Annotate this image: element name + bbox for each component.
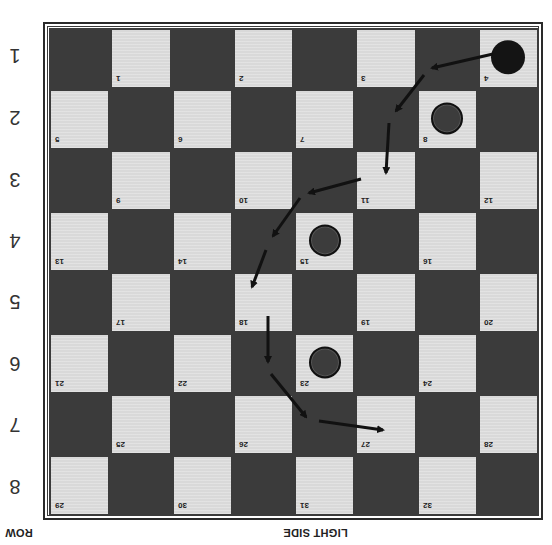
square-number: 13: [55, 257, 64, 266]
square-14[interactable]: 14: [172, 211, 233, 272]
dark-square: [233, 211, 294, 272]
dark-checker-piece-icon[interactable]: [309, 346, 341, 378]
square-2[interactable]: 2: [233, 28, 294, 89]
square-9[interactable]: 9: [110, 150, 171, 211]
square-number: 6: [178, 135, 182, 144]
dark-square: [478, 211, 539, 272]
square-23[interactable]: 23: [294, 333, 355, 394]
square-1[interactable]: 1: [110, 28, 171, 89]
dark-square: [172, 28, 233, 89]
square-number: 31: [300, 501, 309, 510]
row-label-4: 4: [0, 229, 30, 252]
dark-square: [172, 150, 233, 211]
square-15[interactable]: 15: [294, 211, 355, 272]
dark-square: [417, 394, 478, 455]
square-19[interactable]: 19: [355, 272, 416, 333]
square-24[interactable]: 24: [417, 333, 478, 394]
square-20[interactable]: 20: [478, 272, 539, 333]
square-16[interactable]: 16: [417, 211, 478, 272]
board-grid: 1234567891011121314151617181920212223242…: [49, 28, 539, 516]
dark-square: [110, 455, 171, 516]
row-axis-label: ROW: [5, 527, 33, 539]
dark-square: [294, 394, 355, 455]
square-29[interactable]: 29: [49, 455, 110, 516]
dark-square: [294, 272, 355, 333]
square-17[interactable]: 17: [110, 272, 171, 333]
square-number: 22: [178, 379, 187, 388]
square-25[interactable]: 25: [110, 394, 171, 455]
dark-square: [355, 455, 416, 516]
square-number: 3: [361, 74, 365, 83]
square-number: 5: [55, 135, 59, 144]
square-number: 9: [116, 196, 120, 205]
row-label-5: 5: [0, 290, 30, 313]
dark-square: [49, 394, 110, 455]
square-number: 24: [423, 379, 432, 388]
dark-square: [110, 211, 171, 272]
dark-square: [417, 28, 478, 89]
board-inner-border: 1234567891011121314151617181920212223242…: [47, 26, 539, 516]
square-7[interactable]: 7: [294, 89, 355, 150]
square-3[interactable]: 3: [355, 28, 416, 89]
square-number: 29: [55, 501, 64, 510]
square-5[interactable]: 5: [49, 89, 110, 150]
square-12[interactable]: 12: [478, 150, 539, 211]
row-label-8: 8: [0, 475, 30, 498]
dark-square: [355, 89, 416, 150]
dark-square: [478, 89, 539, 150]
square-28[interactable]: 28: [478, 394, 539, 455]
dark-square: [417, 150, 478, 211]
square-number: 25: [116, 440, 125, 449]
square-31[interactable]: 31: [294, 455, 355, 516]
square-number: 10: [239, 196, 248, 205]
dark-square: [233, 333, 294, 394]
square-number: 32: [423, 501, 432, 510]
square-number: 7: [300, 135, 304, 144]
dark-square: [172, 394, 233, 455]
square-10[interactable]: 10: [233, 150, 294, 211]
square-32[interactable]: 32: [417, 455, 478, 516]
row-label-2: 2: [0, 106, 30, 129]
square-number: 17: [116, 318, 125, 327]
square-26[interactable]: 26: [233, 394, 294, 455]
black-checker-piece-icon[interactable]: [491, 40, 525, 74]
row-label-3: 3: [0, 168, 30, 191]
square-13[interactable]: 13: [49, 211, 110, 272]
square-number: 8: [423, 135, 427, 144]
dark-square: [110, 89, 171, 150]
dark-square: [49, 150, 110, 211]
square-22[interactable]: 22: [172, 333, 233, 394]
dark-square: [233, 89, 294, 150]
row-label-7: 7: [0, 413, 30, 436]
square-number: 14: [178, 257, 187, 266]
dark-square: [478, 455, 539, 516]
square-8[interactable]: 8: [417, 89, 478, 150]
dark-square: [172, 272, 233, 333]
dark-square: [355, 333, 416, 394]
dark-square: [294, 28, 355, 89]
dark-checker-piece-icon[interactable]: [309, 224, 341, 256]
dark-square: [49, 272, 110, 333]
square-21[interactable]: 21: [49, 333, 110, 394]
square-number: 28: [484, 440, 493, 449]
square-6[interactable]: 6: [172, 89, 233, 150]
square-number: 2: [239, 74, 243, 83]
square-number: 4: [484, 74, 488, 83]
row-label-6: 6: [0, 352, 30, 375]
square-number: 11: [361, 196, 369, 205]
square-number: 26: [239, 440, 248, 449]
square-11[interactable]: 11: [355, 150, 416, 211]
dark-square: [417, 272, 478, 333]
square-30[interactable]: 30: [172, 455, 233, 516]
dark-square: [355, 211, 416, 272]
dark-square: [49, 28, 110, 89]
dark-checker-piece-icon[interactable]: [431, 102, 463, 134]
square-27[interactable]: 27: [355, 394, 416, 455]
square-4[interactable]: 4: [478, 28, 539, 89]
square-number: 21: [55, 379, 64, 388]
square-number: 19: [361, 318, 370, 327]
square-number: 16: [423, 257, 432, 266]
square-18[interactable]: 18: [233, 272, 294, 333]
square-number: 30: [178, 501, 187, 510]
row-label-1: 1: [0, 44, 30, 67]
